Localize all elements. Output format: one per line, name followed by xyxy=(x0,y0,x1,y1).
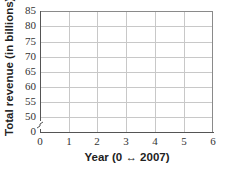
x-axis xyxy=(40,132,214,133)
x-tick-label: 5 xyxy=(178,136,190,147)
y-axis-label: Total revenue (in billions) xyxy=(3,6,17,136)
axis-break-icon xyxy=(36,121,44,129)
x-tick-label: 4 xyxy=(149,136,161,147)
x-tick-label: 6 xyxy=(207,136,219,147)
x-tick-label: 3 xyxy=(120,136,132,147)
x-tick-label: 1 xyxy=(63,136,75,147)
x-axis-label: Year (0 ↔ 2007) xyxy=(40,151,214,163)
x-tick-label: 2 xyxy=(91,136,103,147)
plot-area xyxy=(40,11,213,132)
y-axis xyxy=(40,11,41,132)
x-tick-label: 0 xyxy=(34,136,46,147)
